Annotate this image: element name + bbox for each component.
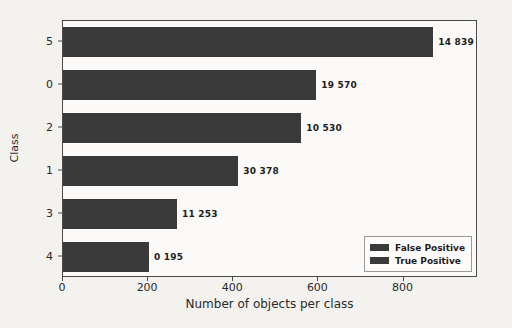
legend-entry: False Positive xyxy=(370,241,465,254)
x-tick-200: 200 xyxy=(137,281,158,294)
x-tick-400: 400 xyxy=(222,281,243,294)
bar-value-label: 0 195 xyxy=(154,252,183,262)
bar-row: 19 570 xyxy=(63,70,478,100)
plot-frame: 14 83919 57010 53030 37811 2530 195 Fals… xyxy=(62,20,477,277)
x-tick-mark xyxy=(403,277,404,281)
x-tick-0: 0 xyxy=(59,281,66,294)
bar-4 xyxy=(63,242,149,272)
x-tick-600: 600 xyxy=(307,281,328,294)
y-tick-4: 4 xyxy=(46,249,53,262)
figure: Class 502134 14 83919 57010 53030 37811 … xyxy=(0,0,512,328)
bar-row: 10 530 xyxy=(63,113,478,143)
bar-row: 30 378 xyxy=(63,156,478,186)
bar-value-label: 11 253 xyxy=(182,209,218,219)
bar-value-label: 10 530 xyxy=(306,123,342,133)
x-tick-mark xyxy=(317,277,318,281)
bar-value-label: 14 839 xyxy=(438,37,474,47)
legend-entry: True Positive xyxy=(370,254,465,267)
x-axis-label: Number of objects per class xyxy=(62,297,477,311)
bar-5 xyxy=(63,27,433,57)
bar-0 xyxy=(63,70,316,100)
bar-value-label: 30 378 xyxy=(243,166,279,176)
y-axis-label: Class xyxy=(8,134,21,163)
bar-row: 11 253 xyxy=(63,199,478,229)
y-tick-0: 0 xyxy=(46,78,53,91)
y-tick-2: 2 xyxy=(46,121,53,134)
y-tick-3: 3 xyxy=(46,206,53,219)
legend-label: False Positive xyxy=(395,243,465,253)
bar-1 xyxy=(63,156,238,186)
chart-legend: False PositiveTrue Positive xyxy=(364,236,472,272)
legend-label: True Positive xyxy=(395,256,461,266)
x-tick-mark xyxy=(147,277,148,281)
x-tick-mark xyxy=(232,277,233,281)
bar-value-label: 19 570 xyxy=(321,80,357,90)
x-tick-mark xyxy=(62,277,63,281)
legend-swatch-icon xyxy=(370,257,389,264)
legend-swatch-icon xyxy=(370,244,389,251)
y-tick-1: 1 xyxy=(46,163,53,176)
x-tick-800: 800 xyxy=(392,281,413,294)
bar-row: 14 839 xyxy=(63,27,478,57)
y-tick-5: 5 xyxy=(46,35,53,48)
bar-2 xyxy=(63,113,301,143)
bar-3 xyxy=(63,199,177,229)
